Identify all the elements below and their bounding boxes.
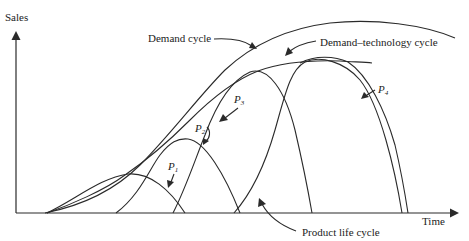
p1-pointer [171, 174, 174, 182]
demand-cycle-arrow-icon [249, 42, 257, 49]
product-life-cycle-label: Product life cycle [302, 226, 380, 238]
demand-cycle-curve [45, 21, 455, 213]
y-axis-arrow-icon [12, 31, 21, 40]
demand-cycle-pointer [214, 39, 252, 46]
product-life-cycle-pointer [262, 204, 296, 231]
demand-technology-diagram: Sales Time Demand cycle Demand–technolog… [0, 0, 469, 241]
p4-curve-outer [300, 57, 408, 213]
demand-technology-cycle-label: Demand–technology cycle [320, 36, 438, 48]
p3-arrow-icon [219, 114, 228, 122]
p2-label: P2 [194, 122, 206, 136]
p4-curve-inner [234, 59, 402, 213]
demand-technology-arrow-icon [285, 47, 293, 56]
p3-pointer [225, 108, 238, 118]
x-axis-label: Time [422, 215, 445, 227]
p1-arrow-icon [167, 180, 174, 188]
p1-label: P1 [167, 160, 178, 174]
x-axis-arrow-icon [450, 209, 459, 218]
demand-technology-pointer [290, 41, 316, 51]
y-axis-label: Sales [5, 11, 28, 23]
p4-label: P4 [377, 83, 389, 97]
p3-curve [173, 71, 312, 213]
p3-label: P3 [233, 93, 245, 107]
product-life-cycle-arrow-icon [258, 198, 266, 207]
demand-cycle-label: Demand cycle [148, 32, 211, 44]
